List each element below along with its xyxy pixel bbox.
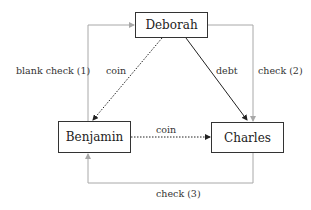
node-benjamin: Benjamin	[58, 121, 131, 153]
node-deborah: Deborah	[135, 12, 208, 38]
node-charles: Charles	[211, 122, 284, 153]
flow-diagram: Deborah Benjamin Charles blank check (1)…	[0, 0, 311, 210]
label-coin-deborah-benjamin: coin	[106, 66, 126, 76]
edge-debt	[186, 38, 247, 120]
edge-check-3	[88, 153, 253, 183]
edge-coin-deborah-benjamin	[93, 38, 162, 120]
label-check-3: check (3)	[156, 189, 201, 199]
label-coin-benjamin-charles: coin	[156, 125, 176, 135]
label-debt: debt	[216, 66, 238, 76]
label-blank-check: blank check (1)	[16, 66, 90, 76]
label-check-2: check (2)	[258, 66, 303, 76]
